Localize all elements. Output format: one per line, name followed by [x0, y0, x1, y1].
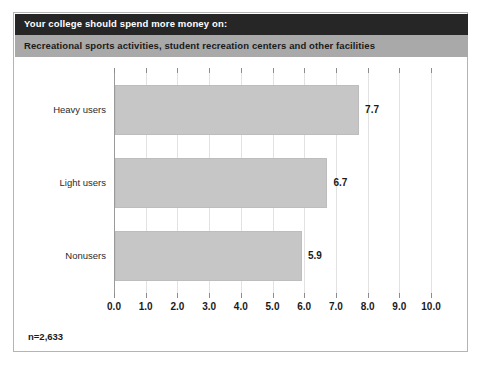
bar: [115, 158, 327, 208]
plot-area: 7.76.75.9: [114, 73, 431, 293]
x-axis-tick: [336, 293, 337, 298]
bar-value-label: 5.9: [308, 250, 322, 261]
x-axis-tick-label: 7.0: [329, 301, 343, 312]
x-axis-tick-top: [431, 68, 432, 73]
chart-subtitle-bar: Recreational sports activities, student …: [15, 35, 468, 57]
y-axis-category-label: Light users: [60, 177, 106, 188]
y-axis-category-labels: Heavy usersLight usersNonusers: [14, 73, 106, 293]
x-axis-tick: [177, 293, 178, 298]
x-axis-tick-labels: 0.01.02.03.04.05.06.07.08.09.010.0: [114, 301, 431, 315]
x-axis-tick-label: 5.0: [266, 301, 280, 312]
y-axis-category-label: Nonusers: [65, 250, 106, 261]
gridline: [431, 73, 432, 293]
chart-figure: Your college should spend more money on:…: [13, 12, 468, 352]
x-axis-tick-top: [368, 68, 369, 73]
x-axis-tick-label: 3.0: [202, 301, 216, 312]
x-axis-tick: [241, 293, 242, 298]
x-axis-tick-top: [177, 68, 178, 73]
x-axis-tick: [114, 293, 115, 298]
x-axis-tick-label: 6.0: [297, 301, 311, 312]
x-axis-tick-label: 8.0: [361, 301, 375, 312]
chart-subtitle: Recreational sports activities, student …: [24, 40, 375, 51]
x-axis-tick-label: 9.0: [392, 301, 406, 312]
x-axis-tick-top: [336, 68, 337, 73]
plot-wrapper: Heavy usersLight usersNonusers 7.76.75.9…: [14, 57, 469, 353]
x-axis-tick-label: 1.0: [139, 301, 153, 312]
x-axis-tick: [209, 293, 210, 298]
sample-size-note: n=2,633: [28, 331, 63, 342]
x-axis-tick-label: 2.0: [170, 301, 184, 312]
chart-title: Your college should spend more money on:: [24, 18, 227, 29]
x-axis-tick: [273, 293, 274, 298]
y-axis-category-label: Heavy users: [53, 104, 106, 115]
bar-value-label: 6.7: [333, 177, 347, 188]
x-axis-tick-top: [241, 68, 242, 73]
x-axis-tick: [399, 293, 400, 298]
x-axis-tick: [368, 293, 369, 298]
gridline: [399, 73, 400, 293]
x-axis-tick: [304, 293, 305, 298]
bar: [115, 231, 302, 281]
x-axis-tick: [146, 293, 147, 298]
x-axis-tick-top: [146, 68, 147, 73]
x-axis-tick-top: [273, 68, 274, 73]
bar-value-label: 7.7: [365, 104, 379, 115]
x-axis-tick-label: 4.0: [234, 301, 248, 312]
bar: [115, 85, 359, 135]
chart-title-bar: Your college should spend more money on:: [15, 14, 468, 35]
x-axis-tick-label: 0.0: [107, 301, 121, 312]
x-axis-tick-label: 10.0: [421, 301, 440, 312]
x-axis-tick-top: [304, 68, 305, 73]
x-axis-tick-top: [209, 68, 210, 73]
x-axis-tick: [431, 293, 432, 298]
x-axis-tick-top: [399, 68, 400, 73]
